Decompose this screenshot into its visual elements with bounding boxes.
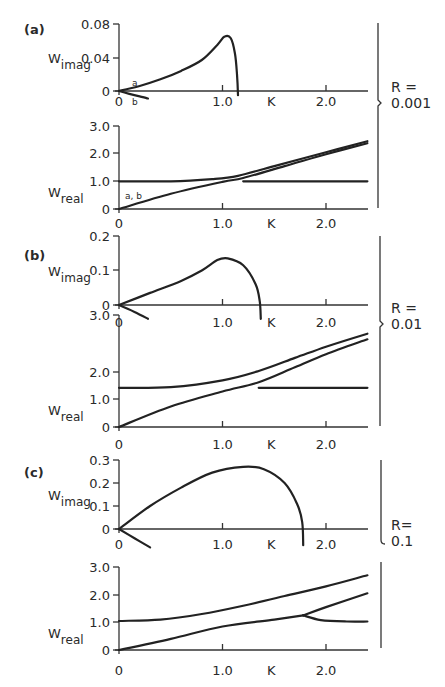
y-tick-label: 1.0 xyxy=(89,392,110,407)
panel-label: (a) xyxy=(24,22,45,37)
y-tick-label: 0 xyxy=(102,202,110,217)
y-axis-label: Wreal xyxy=(48,626,84,647)
y-tick-label: 0 xyxy=(102,643,110,658)
y-tick-label: 3.0 xyxy=(89,308,110,323)
x-tick-label: 1.0 xyxy=(212,437,233,452)
r-bracket: R =0.001 xyxy=(378,23,431,208)
y-tick-label: 3.0 xyxy=(89,119,110,134)
bracket-line xyxy=(380,236,383,426)
y-tick-label: 0.1 xyxy=(89,263,110,278)
r-label: R= xyxy=(391,517,412,533)
curve-unstable xyxy=(119,467,303,545)
r-label: R = xyxy=(391,300,417,316)
curve-upper xyxy=(119,334,367,388)
x-axis-label: K xyxy=(267,537,276,552)
x-axis-label: K xyxy=(267,315,276,330)
x-axis-label: K xyxy=(267,94,276,109)
bracket-line xyxy=(381,460,385,544)
y-tick-label: 0.1 xyxy=(89,499,110,514)
y-tick-label: 2.0 xyxy=(89,146,110,161)
y-tick-label: 1.0 xyxy=(89,174,110,189)
r-value: 0.1 xyxy=(391,533,413,549)
r-value: 0.001 xyxy=(391,95,431,111)
dispersion-figure: (a)00.040.0801.02.0KWimagab01.02.03.001.… xyxy=(0,0,445,687)
curve-upper xyxy=(119,575,367,621)
x-tick-label: 0 xyxy=(115,537,123,552)
subplot-imag: 00.040.0801.02.0KWimagab xyxy=(48,17,368,109)
curve-damped xyxy=(119,529,150,547)
y-tick-label: 0.2 xyxy=(89,476,110,491)
curve-a-b xyxy=(119,143,367,209)
x-tick-label: 2.0 xyxy=(316,663,337,678)
y-axis-label: Wimag xyxy=(48,264,91,285)
x-tick-label: 1.0 xyxy=(212,216,233,231)
x-tick-label: 0 xyxy=(115,437,123,452)
subplot-imag: 00.10.20.301.02.0KWimag xyxy=(48,453,368,552)
x-tick-label: 2.0 xyxy=(316,537,337,552)
x-tick-label: 2.0 xyxy=(316,315,337,330)
x-tick-label: 1.0 xyxy=(212,94,233,109)
x-tick-label: 0 xyxy=(115,94,123,109)
annotation-ab: a, b xyxy=(125,191,142,201)
x-tick-label: 0 xyxy=(115,216,123,231)
x-axis-label: K xyxy=(267,663,276,678)
curve-branch-down xyxy=(303,615,367,621)
y-tick-label: 0.08 xyxy=(81,17,110,32)
x-tick-label: 1.0 xyxy=(212,315,233,330)
panel-b: (b)00.10.201.02.0KWimag01.02.03.001.02.0… xyxy=(24,229,422,452)
panel-a: (a)00.040.0801.02.0KWimagab01.02.03.001.… xyxy=(24,17,431,231)
panel-c: (c)00.10.20.301.02.0KWimag01.02.03.001.0… xyxy=(24,453,413,678)
x-tick-label: 2.0 xyxy=(316,94,337,109)
y-tick-label: 2.0 xyxy=(89,588,110,603)
y-axis-label: Wimag xyxy=(48,488,91,509)
y-tick-label: 2.0 xyxy=(89,365,110,380)
r-bracket: R =0.01 xyxy=(380,236,422,426)
r-bracket: R=0.1 xyxy=(381,460,413,648)
y-tick-label: 1.0 xyxy=(89,615,110,630)
x-axis-label: K xyxy=(267,437,276,452)
y-tick-label: 0 xyxy=(102,522,110,537)
y-tick-label: 0 xyxy=(102,420,110,435)
y-tick-label: 0.2 xyxy=(89,229,110,244)
x-tick-label: 1.0 xyxy=(212,537,233,552)
subplot-real: 01.02.03.001.02.0KWreal xyxy=(48,560,368,678)
r-label: R = xyxy=(391,79,417,95)
y-tick-label: 0 xyxy=(102,84,110,99)
subplot-real: 01.02.03.001.02.0KWreala, b xyxy=(48,119,368,231)
x-tick-label: 1.0 xyxy=(212,663,233,678)
bracket-line xyxy=(378,23,381,208)
panel-label: (b) xyxy=(24,248,45,263)
x-tick-label: 2.0 xyxy=(316,216,337,231)
curve-upper xyxy=(119,141,367,181)
x-axis-label: K xyxy=(267,216,276,231)
curve-unstable xyxy=(119,258,261,319)
annotation-a: a xyxy=(132,78,138,88)
panel-label: (c) xyxy=(24,465,44,480)
annotation-b: b xyxy=(132,97,138,107)
x-tick-label: 0 xyxy=(115,663,123,678)
curve-damped xyxy=(119,305,148,319)
curve-branch-up xyxy=(303,593,367,615)
y-tick-label: 0.3 xyxy=(89,453,110,468)
y-axis-label: Wreal xyxy=(48,185,84,206)
r-value: 0.01 xyxy=(391,316,422,332)
x-tick-label: 2.0 xyxy=(316,437,337,452)
y-tick-label: 3.0 xyxy=(89,560,110,575)
curve-lower xyxy=(119,339,367,427)
y-axis-label: Wreal xyxy=(48,403,84,424)
